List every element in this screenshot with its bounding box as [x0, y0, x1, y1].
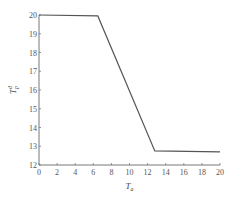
x-tick-label: 0	[37, 168, 41, 177]
y-tick-label: 12	[29, 161, 37, 170]
x-tick-label: 12	[144, 168, 152, 177]
y-tick-label: 13	[29, 142, 37, 151]
x-tick-label: 6	[91, 168, 95, 177]
y-tick-label: 18	[29, 49, 37, 58]
x-tick-label: 4	[73, 168, 77, 177]
y-tick-label: 14	[29, 124, 37, 133]
data-series-line	[39, 15, 220, 152]
y-tick-label: 17	[29, 67, 37, 76]
x-tick-label: 8	[109, 168, 113, 177]
x-axis-label-sub: a	[131, 186, 134, 192]
y-tick-label: 19	[29, 30, 37, 39]
x-tick-label: 2	[55, 168, 59, 177]
y-axis-label-sub: p	[13, 86, 19, 90]
y-tick-label: 15	[29, 105, 37, 114]
line-chart: 02468101214161820 121314151617181920 Ta …	[0, 0, 235, 203]
y-axis-label-sup: d	[7, 85, 13, 89]
x-axis-label: Ta	[125, 181, 133, 192]
x-tick-label: 18	[198, 168, 206, 177]
y-tick-label: 20	[29, 11, 37, 20]
x-tick-label: 20	[216, 168, 224, 177]
y-axis-label: Tpd	[7, 85, 19, 94]
x-tick-label: 14	[162, 168, 170, 177]
x-tick-label: 10	[126, 168, 134, 177]
x-tick-label: 16	[180, 168, 188, 177]
y-tick-label: 16	[29, 86, 37, 95]
